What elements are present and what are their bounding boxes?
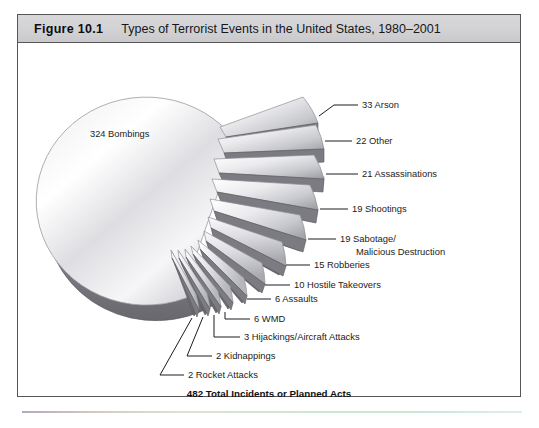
slice-label-assaults: 6 Assaults [275, 293, 318, 304]
slice-label-other: 22 Other [356, 135, 392, 146]
slice-label-kidnappings: 2 Kidnappings [216, 350, 276, 361]
leader-rocket-attacks [160, 318, 192, 375]
pie-chart-svg: 324 Bombings [18, 43, 520, 397]
slice-label-sabotage-line2: Malicious Destruction [356, 246, 445, 257]
slice-label-robberies: 15 Robberies [314, 259, 370, 270]
slice-label-arson: 33 Arson [362, 99, 399, 110]
leader-hijackings [214, 315, 240, 337]
slice-label-hijackings: 3 Hijackings/Aircraft Attacks [244, 331, 360, 342]
slice-label-shootings: 19 Shootings [352, 203, 407, 214]
slice-label-assassinations: 21 Assassinations [362, 168, 437, 179]
leader-kidnappings [187, 317, 212, 356]
slice-label-wmd: 6 WMD [254, 313, 285, 324]
total-incidents-label: 482 Total Incidents or Planned Acts [187, 388, 352, 397]
slice-label-rocket-attacks: 2 Rocket Attacks [188, 369, 258, 380]
figure-header: Figure 10.1 Types of Terrorist Events in… [18, 15, 520, 43]
slice-label-sabotage: 19 Sabotage/ [340, 233, 396, 244]
figure-title: Types of Terrorist Events in the United … [121, 22, 440, 36]
figure-page: { "figure": { "number": "Figure 10.1", "… [0, 0, 539, 428]
pie-chart: 324 Bombings [18, 43, 520, 397]
figure-frame: Figure 10.1 Types of Terrorist Events in… [17, 14, 521, 397]
slice-label-hostile-takeovers: 10 Hostile Takeovers [294, 279, 381, 290]
scan-edge-artifact [22, 411, 522, 413]
leader-wmd [225, 312, 250, 319]
figure-number: Figure 10.1 [34, 22, 103, 36]
slice-label-bombings: 324 Bombings [90, 129, 150, 139]
leader-arson [319, 105, 334, 116]
